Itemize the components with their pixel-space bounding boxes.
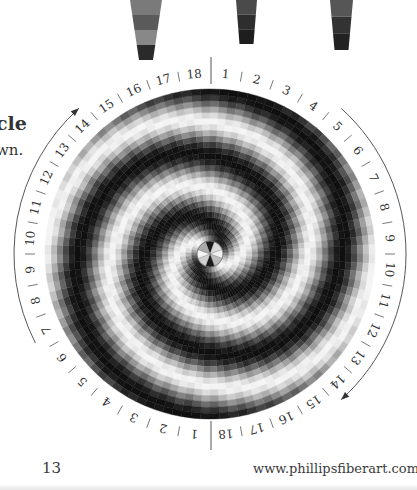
bottom-label: 13 — [52, 140, 72, 161]
bottom-label: 16 — [124, 81, 144, 100]
bottom-label: 2 — [158, 421, 169, 437]
tick-mark — [50, 342, 59, 347]
top-label: 2 — [251, 72, 262, 88]
tick-mark — [36, 314, 45, 317]
tick-mark — [270, 80, 273, 89]
bottom-label: 5 — [75, 374, 90, 389]
body-text-fragment: wn. — [0, 141, 23, 159]
tick-mark — [118, 406, 123, 415]
tick-mark — [382, 222, 392, 224]
tick-mark — [91, 112, 97, 120]
tick-mark — [382, 284, 392, 286]
top-label: 3 — [280, 82, 293, 98]
tick-mark — [322, 112, 328, 120]
tick-mark — [240, 426, 242, 436]
tick-mark — [118, 94, 123, 103]
bottom-label: 14 — [72, 116, 93, 137]
bottom-label: 6 — [54, 350, 70, 364]
center-wedges — [197, 241, 223, 267]
tick-mark — [374, 314, 383, 317]
yarn-piece — [330, 0, 353, 50]
tick-mark — [50, 162, 59, 167]
top-label: 4 — [306, 98, 321, 114]
top-label: 1 — [221, 67, 230, 82]
section-heading-fragment: cle — [0, 112, 27, 134]
tick-mark — [322, 388, 328, 396]
tick-mark — [240, 72, 242, 82]
bottom-label: 3 — [127, 410, 140, 426]
tick-mark — [28, 222, 38, 224]
tick-mark — [178, 426, 180, 436]
yarn-color-pieces — [130, 0, 353, 60]
bottom-label: 11 — [27, 198, 44, 216]
bottom-label: 15 — [96, 96, 117, 116]
tick-mark — [362, 162, 371, 167]
top-label: 16 — [276, 408, 296, 427]
bottom-label: 12 — [37, 168, 56, 188]
top-label: 7 — [366, 171, 382, 184]
top-label: 17 — [248, 420, 266, 437]
yarn-piece — [236, 0, 257, 44]
bottom-label: 17 — [154, 71, 172, 88]
tick-mark — [147, 418, 150, 427]
tick-mark — [298, 406, 303, 415]
top-label: 6 — [350, 143, 366, 157]
bottom-label: 4 — [99, 394, 114, 410]
top-label: 10 — [382, 262, 397, 278]
tick-mark — [91, 388, 97, 396]
top-label: 15 — [303, 392, 324, 412]
bottom-label: 10 — [23, 230, 38, 246]
tick-mark — [68, 366, 76, 372]
tick-mark — [68, 135, 76, 141]
top-label: 11 — [376, 292, 393, 310]
website-link[interactable]: www.phillipsfiberart.com — [253, 461, 417, 476]
tick-mark — [28, 284, 38, 286]
page-edge-shadow — [0, 484, 417, 490]
yarn-piece — [130, 0, 162, 60]
bottom-label: 18 — [186, 67, 202, 82]
tick-mark — [344, 366, 352, 372]
top-label: 18 — [218, 426, 234, 441]
top-label: 5 — [330, 119, 345, 134]
bottom-label: 8 — [28, 295, 44, 306]
tick-mark — [374, 191, 383, 194]
tick-mark — [178, 72, 180, 82]
tick-mark — [147, 80, 150, 89]
top-label: 8 — [377, 202, 393, 213]
tick-mark — [344, 135, 352, 141]
bottom-label: 7 — [38, 324, 54, 337]
tick-mark — [270, 418, 273, 427]
tick-mark — [36, 191, 45, 194]
page-number: 13 — [42, 459, 61, 477]
tick-mark — [298, 94, 303, 103]
top-label: 13 — [348, 347, 368, 368]
top-label: 12 — [364, 320, 383, 340]
bottom-label: 1 — [190, 427, 199, 442]
top-label: 9 — [383, 234, 398, 243]
tick-mark — [362, 342, 371, 347]
spiral-pattern-diagram: 1122334455667788991010111112121313141415… — [0, 0, 417, 490]
top-label: 14 — [327, 371, 348, 392]
bottom-label: 9 — [23, 265, 38, 274]
pattern-page: 1122334455667788991010111112121313141415… — [0, 0, 417, 490]
